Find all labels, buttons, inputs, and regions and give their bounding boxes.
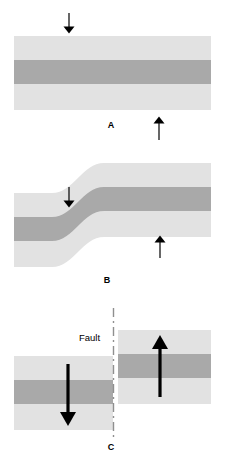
panel-c-stage-label: C (103, 443, 119, 452)
panel-b: B (0, 148, 226, 300)
stress-arrow-up-icon (154, 117, 165, 141)
upthrown-block (118, 330, 211, 404)
panel-b-stage-label: B (99, 276, 115, 285)
stress-arrow-up-icon (155, 236, 166, 259)
panel-a-stage-label: A (103, 121, 119, 130)
fault-label: Fault (79, 333, 100, 343)
rock-layer-dark (14, 380, 113, 404)
fault-formation-diagram: A B (0, 0, 226, 464)
panel-a: A (0, 0, 226, 148)
rock-layer-dark (118, 354, 211, 378)
panel-c-graphic (0, 300, 226, 464)
downthrown-block (14, 356, 113, 430)
stress-arrow-down-icon (64, 13, 75, 34)
rock-layer-dark (14, 60, 211, 84)
rock-layer-light (14, 163, 211, 267)
panel-c: Fault C (0, 300, 226, 464)
